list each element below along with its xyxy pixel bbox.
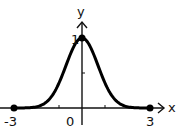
x-axis-label: x <box>168 100 176 115</box>
x-tick-label-neg3: -3 <box>4 114 17 129</box>
x-tick-label-0: 0 <box>66 114 74 129</box>
bell-curve-chart: y x -3 0 3 1 <box>0 0 182 129</box>
point-pos3 <box>147 105 154 112</box>
y-axis-label: y <box>77 4 85 19</box>
point-peak <box>79 35 86 42</box>
x-tick-label-3: 3 <box>146 114 154 129</box>
y-tick-label-1: 1 <box>71 32 79 47</box>
point-neg3 <box>11 105 18 112</box>
